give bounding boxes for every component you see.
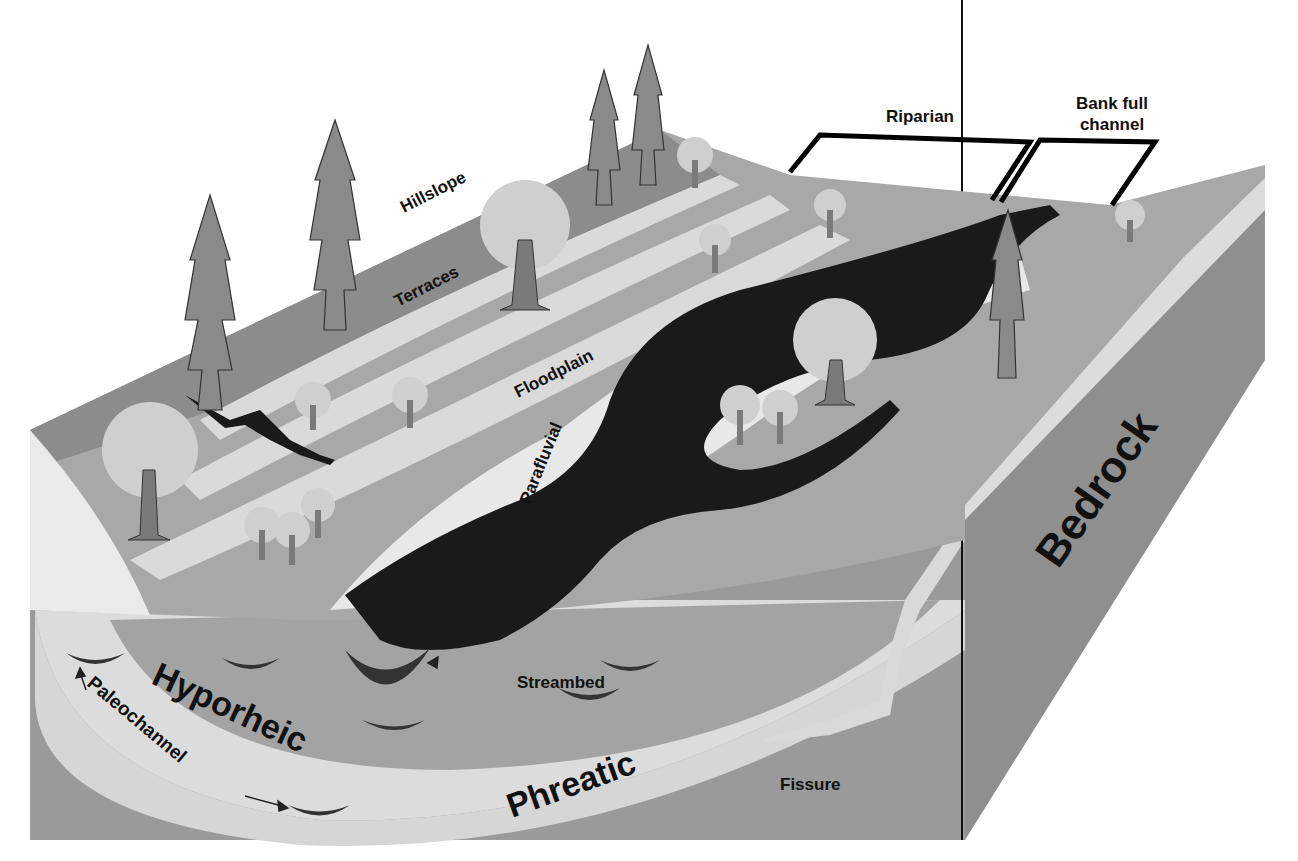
label-bank-full-line2: channel bbox=[1080, 115, 1144, 134]
label-streambed: Streambed bbox=[517, 673, 605, 692]
label-bank-full-line1: Bank full bbox=[1076, 94, 1148, 113]
label-fissure: Fissure bbox=[780, 775, 840, 794]
river-corridor-diagram: Riparian Bank full channel Hillslope Ter… bbox=[0, 0, 1298, 861]
label-riparian: Riparian bbox=[886, 107, 954, 126]
label-hillslope: Hillslope bbox=[397, 167, 469, 216]
